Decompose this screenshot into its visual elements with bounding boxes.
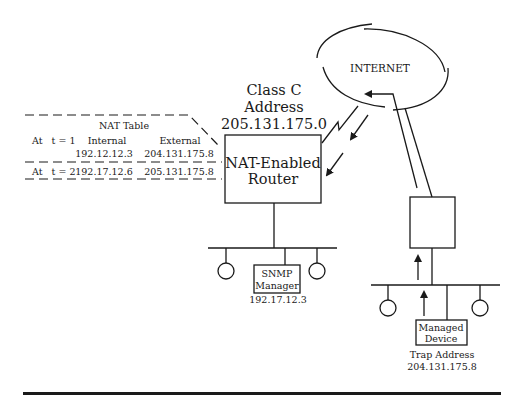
svg-text:Device: Device [425,333,458,344]
snmp-manager-address: 192.17.12.3 [249,294,306,305]
svg-text:Managed: Managed [419,322,464,333]
nat-table-title: NAT Table [99,120,149,131]
managed-device: Managed Device Trap Address 204.131.175.… [407,320,477,372]
nat-row-2-external: 205.131.175.8 [144,166,214,177]
nat-header-external: External [159,135,200,146]
internet-label: INTERNET [350,62,410,74]
svg-text:Address: Address [243,99,303,115]
nat-row-1-internal: 192.12.12.3 [75,148,132,159]
class-c-address-label: Class C Address 205.131.175.0 [221,82,327,132]
nat-router: NAT-Enabled Router [225,135,321,203]
nat-header-internal: Internal [88,135,127,146]
host-node-icon [472,300,488,316]
nat-row-1-time: At t = 1 [31,135,75,146]
nat-row-2-internal: 192.17.12.6 [75,166,132,177]
inbound-arrow-2 [327,153,343,175]
nat-row-1-external: 204.131.175.8 [144,148,214,159]
host-node-icon [380,300,396,316]
host-node-icon [309,263,325,279]
svg-text:Manager: Manager [255,280,299,291]
trap-address-label: Trap Address [410,349,475,360]
remote-lan [371,256,500,320]
remote-router [366,94,455,285]
host-node-icon [218,263,234,279]
nat-row-2-time: At t = 2 [31,166,75,177]
inbound-arrow-1 [351,115,368,139]
bottom-rule [23,392,501,395]
nat-snmp-diagram: INTERNET Class C Address 205.131.175.0 N… [0,0,526,396]
trap-address-value: 204.131.175.8 [407,361,477,372]
svg-text:205.131.175.0: 205.131.175.0 [221,116,327,132]
snmp-manager: SNMP Manager 192.17.12.3 [249,265,306,305]
svg-text:SNMP: SNMP [262,268,294,279]
svg-text:NAT-Enabled: NAT-Enabled [225,155,320,171]
internet-cloud: INTERNET [317,24,448,110]
nat-table: NAT Table At t = 1 Internal External 192… [25,115,222,179]
svg-text:Class C: Class C [247,82,302,98]
svg-text:Router: Router [248,171,298,187]
